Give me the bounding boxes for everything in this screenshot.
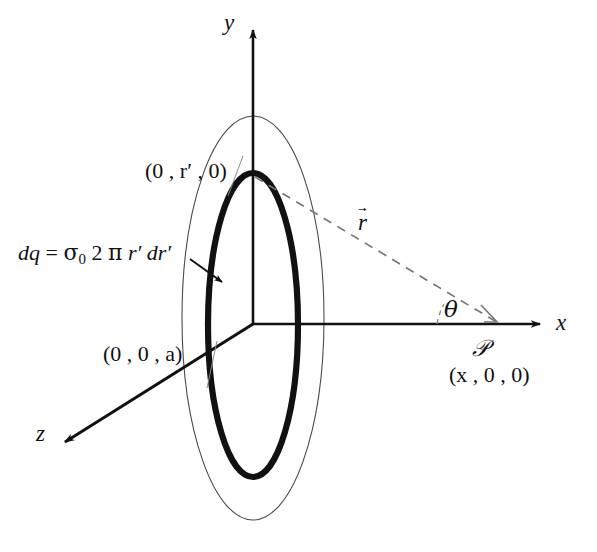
charge-element-leader-arrow xyxy=(190,259,222,282)
y-axis-label: y xyxy=(224,11,234,34)
charge-element-lhs: dq xyxy=(18,240,40,265)
r-prime-symbol: r′ xyxy=(128,240,141,265)
vector-arrow-accent-icon xyxy=(358,205,367,213)
position-vector-arrowhead xyxy=(481,305,497,322)
x-axis-label: x xyxy=(556,311,566,334)
sigma-symbol: σ xyxy=(63,240,78,265)
factor-two: 2 xyxy=(91,240,102,265)
disk-edge-coordinate-label: (0 , 0 , a) xyxy=(103,343,182,365)
position-vector-symbol: r xyxy=(358,210,367,235)
charge-element-equals: = xyxy=(46,240,58,265)
dr-prime-symbol: dr′ xyxy=(147,240,171,265)
physics-diagram: y x z (0 , r′ , 0) (0 , 0 , a) 𝒫 (x , 0 … xyxy=(0,0,597,552)
charge-element-formula: dq = σ0 2 π r′ dr′ xyxy=(18,242,171,267)
diagram-canvas xyxy=(0,0,597,552)
field-point-coordinate-label: (x , 0 , 0) xyxy=(449,364,530,386)
theta-angle-label: θ xyxy=(444,298,458,321)
z-axis-label: z xyxy=(36,422,45,445)
pi-symbol: π xyxy=(108,240,122,265)
position-vector-label: r xyxy=(358,211,367,234)
field-point-label: 𝒫 xyxy=(472,337,489,360)
sigma-subscript: 0 xyxy=(78,251,85,267)
theta-angle-arc xyxy=(437,304,444,324)
ring-point-coordinate-label: (0 , r′ , 0) xyxy=(145,160,227,182)
